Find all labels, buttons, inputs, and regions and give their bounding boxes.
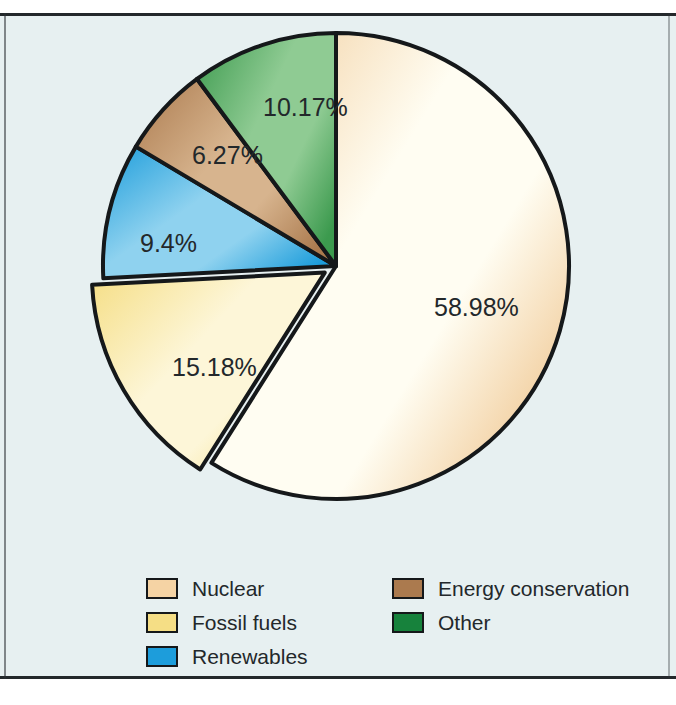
legend-label: Renewables (192, 646, 308, 667)
pie-slice-label-other: 10.17% (263, 93, 348, 121)
plate-right-rule (668, 13, 670, 679)
legend-item[interactable]: Fossil fuels (146, 606, 396, 638)
legend-label: Energy conservation (438, 578, 629, 599)
legend-swatch-nuclear (146, 578, 178, 599)
chart-legend: NuclearFossil fuelsRenewables Energy con… (146, 572, 626, 672)
legend-swatch-energy-conservation (392, 578, 424, 599)
legend-label: Fossil fuels (192, 612, 297, 633)
legend-item[interactable]: Other (392, 606, 642, 638)
legend-swatch-fossil-fuels (146, 612, 178, 633)
pie-slice-label-energy-conservation: 6.27% (192, 141, 263, 169)
legend-swatch-renewables (146, 646, 178, 667)
legend-item[interactable]: Nuclear (146, 572, 396, 604)
legend-item[interactable]: Renewables (146, 640, 396, 672)
legend-column-left: NuclearFossil fuelsRenewables (146, 572, 396, 674)
legend-column-right: Energy conservationOther (392, 572, 642, 640)
pie-slice-label-nuclear: 58.98% (434, 293, 519, 321)
plate-left-rule (4, 13, 6, 679)
pie-slice-label-renewables: 9.4% (140, 229, 197, 257)
legend-swatch-other (392, 612, 424, 633)
legend-label: Nuclear (192, 578, 264, 599)
legend-label: Other (438, 612, 491, 633)
pie-chart: 58.98%15.18%9.4%6.27%10.17% (36, 16, 640, 556)
legend-item[interactable]: Energy conservation (392, 572, 642, 604)
pie-slice-label-fossil-fuels: 15.18% (172, 353, 257, 381)
pie-chart-svg: 58.98%15.18%9.4%6.27%10.17% (36, 16, 640, 556)
figure-plate: 58.98%15.18%9.4%6.27%10.17% NuclearFossi… (0, 0, 676, 705)
